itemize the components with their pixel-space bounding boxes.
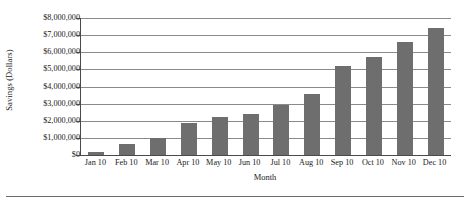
gridline [81,87,451,88]
bar [212,117,228,155]
gridline [81,52,451,53]
bar [335,66,351,155]
y-axis-tick-label: $3,000,000 [6,100,80,108]
gridline [81,138,451,139]
x-axis-tick-label: Sep 10 [327,158,358,167]
bar [181,123,197,155]
x-axis-tick-label: Feb 10 [111,158,142,167]
y-axis-tick-label: $4,000,000 [6,83,80,91]
y-axis-tick-label: $0 [6,151,80,159]
gridline [81,35,451,36]
bar [150,138,166,155]
x-axis-tick-labels: Jan 10Feb 10Mar 10Apr 10May 10Jun 10Jul … [80,158,450,172]
y-axis-tick-label: $7,000,000 [6,31,80,39]
x-axis-title: Month [80,172,450,182]
bar [304,94,320,155]
gridline [81,121,451,122]
x-axis-tick-label: May 10 [203,158,234,167]
x-axis-tick-label: Aug 10 [296,158,327,167]
y-axis-tick-label: $2,000,000 [6,117,80,125]
y-axis-tick-labels: $0$1,000,000$2,000,000$3,000,000$4,000,0… [0,0,80,208]
x-axis-tick-label: Oct 10 [358,158,389,167]
x-axis-tick-label: Jul 10 [265,158,296,167]
savings-bar-chart-figure: Savings (Dollars) $0$1,000,000$2,000,000… [0,0,472,208]
x-axis-tick-label: Mar 10 [142,158,173,167]
bar [119,144,135,155]
bar [428,28,444,155]
plot-area [80,18,451,156]
y-axis-tick-label: $8,000,000 [6,14,80,22]
bar [397,42,413,155]
bar [88,152,104,155]
gridline [81,18,451,19]
x-axis-tick-label: Apr 10 [173,158,204,167]
x-axis-tick-label: Jun 10 [234,158,265,167]
x-axis-tick-label: Jan 10 [80,158,111,167]
y-axis-tick-label: $6,000,000 [6,48,80,56]
bar [243,114,259,155]
bar [273,105,289,155]
x-axis-tick-label: Dec 10 [419,158,450,167]
gridline [81,104,451,105]
x-axis-tick-label: Nov 10 [388,158,419,167]
gridline [81,69,451,70]
bar [366,57,382,155]
y-axis-tick-label: $1,000,000 [6,134,80,142]
bottom-divider [6,196,464,197]
y-axis-tick-label: $5,000,000 [6,65,80,73]
